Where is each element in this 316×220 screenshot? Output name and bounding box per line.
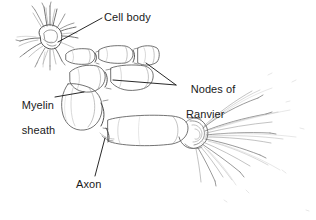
label-axon: Axon <box>76 178 101 191</box>
label-cell-body: Cell body <box>104 11 151 24</box>
label-nodes-of-ranvier-line1: Nodes of <box>191 83 236 95</box>
label-myelin-sheath-line1: Myelin <box>22 99 54 111</box>
label-myelin-sheath-line2: sheath <box>22 124 56 136</box>
neuron-diagram: .ink { fill:none; stroke:#5a5a5a; stroke… <box>0 0 316 220</box>
label-nodes-of-ranvier: Nodes of Ranvier <box>178 70 235 145</box>
label-myelin-sheath: Myelin sheath <box>9 86 55 149</box>
label-nodes-of-ranvier-line2: Ranvier <box>178 108 235 121</box>
